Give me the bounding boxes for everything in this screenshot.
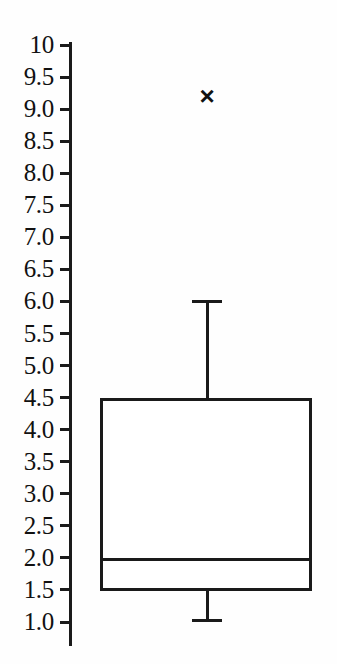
y-axis-tick-mark xyxy=(60,172,70,175)
y-axis-tick-mark xyxy=(60,204,70,207)
y-axis-tick-label: 3.0 xyxy=(0,481,54,506)
y-axis-tick-mark xyxy=(60,332,70,335)
y-axis-tick-label: 10 xyxy=(0,32,54,57)
lower-whisker-line xyxy=(206,591,209,620)
lower-whisker-cap xyxy=(192,619,222,622)
y-axis-tick-mark xyxy=(60,268,70,271)
y-axis-tick-label: 4.0 xyxy=(0,417,54,442)
box-plot-figure: 109.59.08.58.07.57.06.56.05.55.04.54.03.… xyxy=(0,0,337,664)
y-axis-tick-mark xyxy=(60,44,70,47)
y-axis-tick-mark xyxy=(60,428,70,431)
y-axis-tick-label: 7.5 xyxy=(0,192,54,217)
y-axis-tick-mark xyxy=(60,140,70,143)
upper-whisker-cap xyxy=(192,300,222,303)
y-axis-tick-mark xyxy=(60,76,70,79)
y-axis-tick-mark xyxy=(60,524,70,527)
y-axis-tick-mark xyxy=(60,588,70,591)
y-axis-tick-label: 7.0 xyxy=(0,224,54,249)
median-line xyxy=(100,558,312,561)
y-axis-tick-label: 8.0 xyxy=(0,160,54,185)
y-axis-tick-label: 9.0 xyxy=(0,96,54,121)
upper-whisker-line xyxy=(206,301,209,397)
y-axis-tick-mark xyxy=(60,364,70,367)
iqr-box xyxy=(100,398,312,592)
y-axis-tick-mark xyxy=(60,492,70,495)
y-axis-tick-label: 4.5 xyxy=(0,385,54,410)
y-axis-tick-label: 8.5 xyxy=(0,128,54,153)
y-axis-tick-label: 2.5 xyxy=(0,513,54,538)
y-axis-tick-mark xyxy=(60,300,70,303)
y-axis-tick-label: 2.0 xyxy=(0,545,54,570)
y-axis-tick-label: 1.5 xyxy=(0,577,54,602)
y-axis-tick-mark xyxy=(60,460,70,463)
y-axis-tick-label: 5.5 xyxy=(0,321,54,346)
y-axis-tick-label: 6.0 xyxy=(0,288,54,313)
y-axis-tick-label: 9.5 xyxy=(0,64,54,89)
y-axis-tick-mark xyxy=(60,396,70,399)
y-axis-tick-label: 3.5 xyxy=(0,449,54,474)
y-axis-tick-mark xyxy=(60,236,70,239)
y-axis-tick-mark xyxy=(60,621,70,624)
outlier-marker: × xyxy=(199,83,214,109)
y-axis-tick-label: 6.5 xyxy=(0,256,54,281)
y-axis-tick-label: 1.0 xyxy=(0,609,54,634)
y-axis-tick-mark xyxy=(60,108,70,111)
y-axis-tick-label: 5.0 xyxy=(0,353,54,378)
y-axis-tick-mark xyxy=(60,556,70,559)
